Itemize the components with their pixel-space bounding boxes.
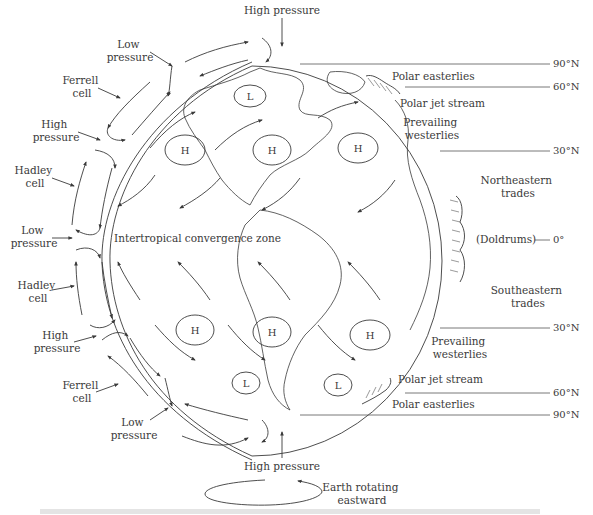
- latitude-label-90n: 90°N: [553, 58, 580, 69]
- cell-arrow: [262, 38, 271, 62]
- latitude-label-60-south: 60°N: [553, 387, 580, 398]
- southeastern-trades-label: Southeastern trades: [491, 284, 566, 309]
- pointer-arrow: [78, 132, 100, 140]
- globe: [102, 62, 442, 460]
- wind-arrow: [262, 178, 300, 210]
- latitude-labels: 90°N 60°N 30°N 0° 30°N 60°N 90°N: [553, 58, 580, 420]
- wind-arrow: [180, 178, 220, 208]
- pressure-system-label: H: [268, 145, 277, 156]
- ferrell-cell-south-label: Ferrell cell: [62, 379, 101, 404]
- hadley-cell-south-label: Hadley cell: [18, 279, 59, 304]
- ferrell-cell-north-label: Ferrell cell: [62, 74, 101, 99]
- cell-arrow: [76, 228, 100, 235]
- bottom-high-pressure-label: High pressure: [244, 460, 320, 472]
- wind-arrow: [318, 325, 355, 360]
- cell-arrow: [168, 66, 172, 96]
- cell-arrow: [185, 42, 248, 62]
- wind-arrow: [318, 102, 358, 118]
- low-pressure-north-label: Low pressure: [107, 38, 154, 63]
- wind-arrow: [118, 175, 155, 206]
- pointer-arrow: [150, 408, 168, 420]
- pressure-system-label: H: [191, 325, 200, 336]
- pointer-arrow: [52, 178, 74, 186]
- pressure-system-label: H: [366, 330, 375, 341]
- wind-arrow: [348, 262, 380, 300]
- cell-arrow: [165, 378, 172, 406]
- earth-rotation-indicator: Earth rotating eastward: [205, 480, 402, 506]
- high-pressure-south-label: High pressure: [34, 329, 81, 354]
- pointer-arrow: [98, 88, 120, 98]
- cell-arrow: [185, 404, 248, 420]
- cell-arrow: [107, 128, 125, 140]
- wind-arrow: [150, 112, 195, 148]
- wind-arrow: [228, 325, 265, 360]
- pressure-system-label: H: [354, 143, 363, 154]
- prevailing-westerlies-south-label: Prevailing westerlies: [431, 335, 488, 360]
- cell-arrow: [90, 320, 115, 328]
- pressure-system-label: L: [243, 378, 250, 389]
- pressure-system-label: L: [247, 91, 254, 102]
- north-america-coastline: [184, 68, 332, 205]
- pressure-system-label: H: [181, 145, 190, 156]
- prevailing-westerlies-north-label: Prevailing westerlies: [403, 116, 460, 141]
- cell-arrow: [262, 420, 268, 442]
- polar-jet-stream-south-label: Polar jet stream: [398, 373, 483, 385]
- cell-arrow: [200, 60, 248, 76]
- globe-outline-left: [110, 66, 252, 456]
- polar-easterlies-south-label: Polar easterlies: [392, 398, 475, 410]
- polar-easterlies-south-band: [362, 378, 391, 404]
- polar-easterlies-north-label: Polar easterlies: [392, 70, 475, 82]
- cell-arrow: [100, 168, 112, 228]
- wind-arrow: [155, 325, 195, 360]
- polar-jet-stream-north-label: Polar jet stream: [400, 97, 485, 109]
- wind-arrow: [215, 120, 262, 150]
- northeastern-trades-label: Northeastern trades: [481, 174, 556, 199]
- latitude-label-30-south: 30°N: [553, 322, 580, 333]
- figure-caption-placeholder: [40, 509, 540, 514]
- pressure-system-label: L: [335, 380, 342, 391]
- cell-arrow: [108, 356, 148, 396]
- wind-arrow: [178, 262, 210, 300]
- greenland-coastline: [327, 71, 365, 93]
- low-pressure-equator-label: Low pressure: [11, 224, 58, 249]
- high-pressure-north-label: High pressure: [33, 118, 80, 143]
- latitude-label-equator: 0°: [553, 234, 564, 245]
- cell-arrow: [95, 150, 115, 168]
- latitude-label-30n: 30°N: [553, 145, 580, 156]
- atmospheric-circulation-diagram: L H H H H H H L L: [0, 0, 593, 515]
- hadley-cell-north-label: Hadley cell: [15, 164, 56, 189]
- latitude-label-60n: 60°N: [553, 81, 580, 92]
- pressure-system-label: H: [268, 327, 277, 338]
- doldrums-label: (Doldrums): [476, 233, 536, 245]
- rotation-arrow: [205, 480, 322, 505]
- tropical-band: [450, 196, 465, 282]
- cell-arrow: [72, 162, 86, 225]
- cell-arrow: [102, 333, 128, 340]
- cell-arrow: [76, 262, 82, 315]
- wind-arrow: [358, 180, 395, 212]
- wind-arrow: [118, 262, 140, 300]
- itcz-label: Intertropical convergence zone: [114, 232, 281, 244]
- latitude-label-90-south: 90°N: [553, 409, 580, 420]
- cell-arrow: [76, 248, 100, 258]
- rotation-label: Earth rotating eastward: [322, 481, 402, 506]
- top-high-pressure-label: High pressure: [244, 4, 320, 16]
- wind-arrow: [258, 262, 290, 300]
